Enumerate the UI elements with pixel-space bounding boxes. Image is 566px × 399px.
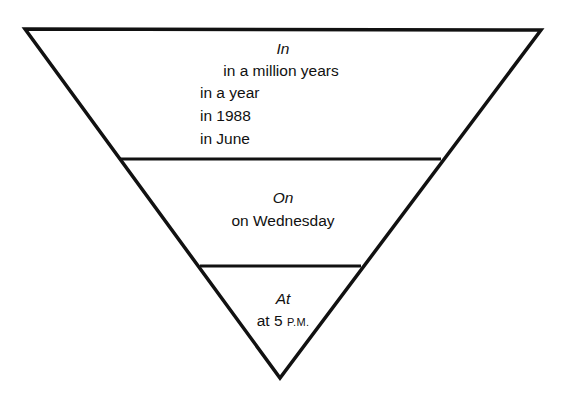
section-at-heading: At <box>0 289 566 309</box>
section-at-example-main: at 5 <box>257 312 287 329</box>
section-in-example: in a million years <box>0 61 564 81</box>
section-in-example: in June <box>200 129 250 149</box>
section-at-example: at 5 P.M. <box>0 311 566 332</box>
section-at-example-smallcaps: P.M. <box>287 316 309 328</box>
section-on-example: on Wednesday <box>0 211 566 231</box>
section-in-heading: In <box>0 39 566 59</box>
section-in-example: in 1988 <box>200 106 251 126</box>
section-in-example: in a year <box>200 83 259 103</box>
section-on-heading: On <box>0 188 566 208</box>
